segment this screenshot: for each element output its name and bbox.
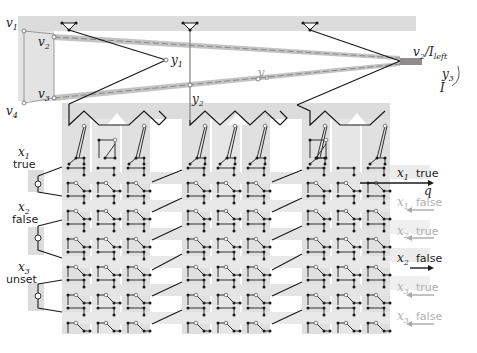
- label-v1: v1: [6, 16, 18, 32]
- var-x2-state: false: [12, 213, 38, 226]
- var-x3-state: unset: [6, 273, 37, 286]
- reduction-figure: v1 v2 v3 v4 y1 y2 v3 v2/Ileft y3 I q x1 …: [0, 0, 477, 353]
- out-x2-false-state: false: [416, 252, 442, 265]
- out-x1-false-name: x1: [397, 195, 409, 211]
- out-x3-false-name: x3: [397, 309, 409, 325]
- label-y1: y1: [170, 53, 183, 69]
- label-v2-Ileft: v2/Ileft: [413, 45, 448, 61]
- label-v4: v4: [6, 104, 18, 120]
- out-x3-true-state: true: [416, 281, 439, 294]
- var-x1-state: true: [13, 158, 36, 171]
- out-x1-false-state: false: [416, 196, 442, 209]
- out-x2-true-state: true: [416, 225, 439, 238]
- background-bands: [18, 16, 430, 334]
- out-x1-true-state: true: [416, 167, 439, 180]
- wedge-bands: [54, 34, 422, 101]
- label-I: I: [439, 81, 445, 95]
- out-x3-false-state: false: [416, 310, 442, 323]
- label-y2: y2: [191, 92, 204, 108]
